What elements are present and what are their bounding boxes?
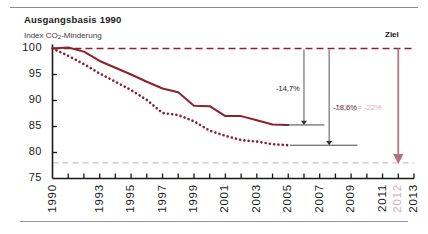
target-ann-post: = -22% — [356, 103, 382, 112]
annotation-target-reduction: ΔCO2 = -22% — [336, 103, 381, 112]
series-line-0 — [53, 47, 289, 124]
arrow-solid-drop-head — [301, 121, 307, 125]
plot-area — [0, 0, 428, 234]
annotation-solid-drop: -14,7% — [276, 84, 300, 93]
arrow-dotted-drop-head — [326, 141, 332, 145]
chart-figure: Ausgangsbasis 1990 Index CO2-Minderung Z… — [0, 0, 428, 234]
target-ann-pre: ΔCO — [336, 103, 352, 112]
series-line-1 — [53, 49, 289, 146]
